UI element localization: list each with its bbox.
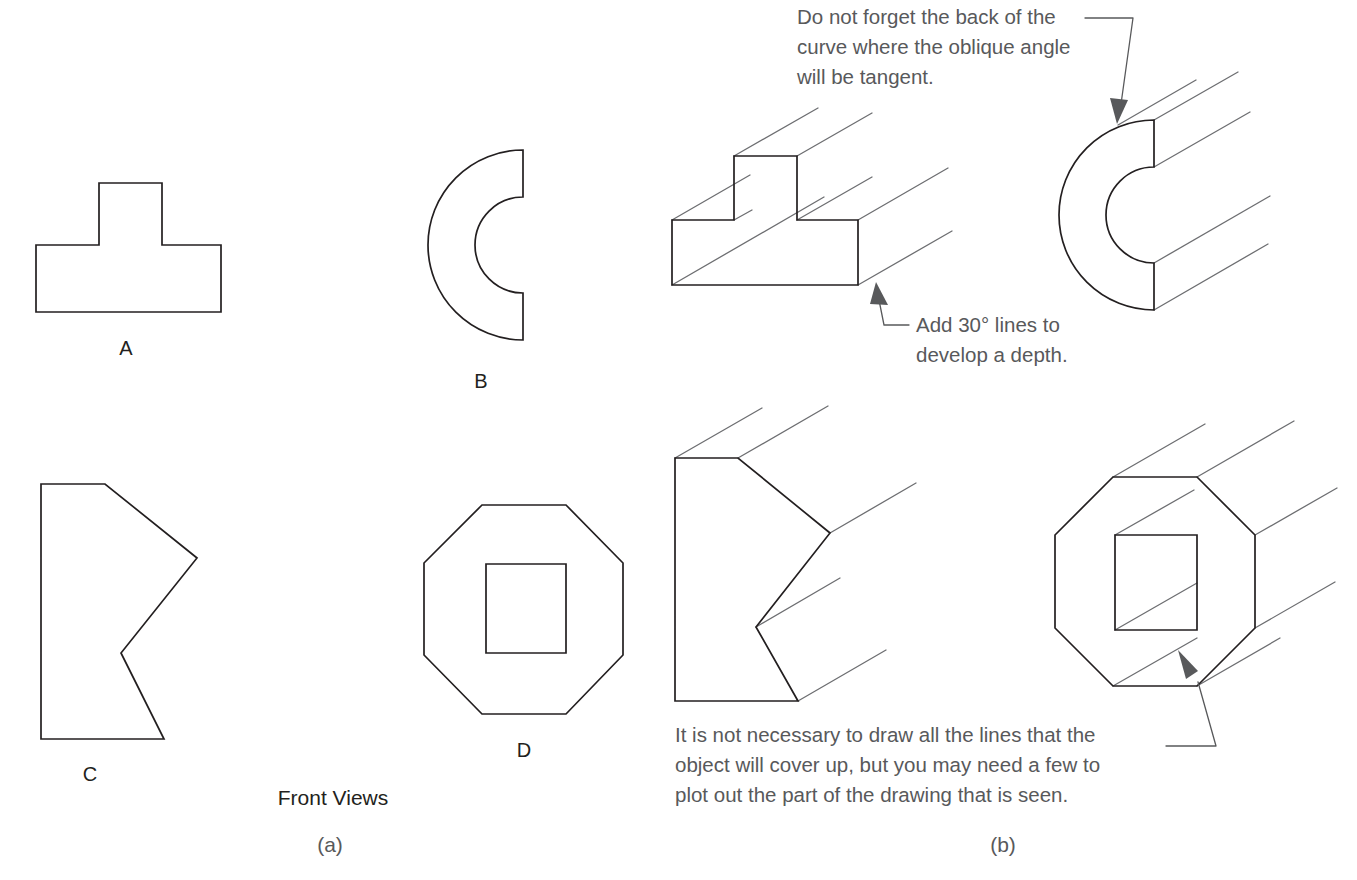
note-add-30-line-1: Add 30° lines to	[916, 313, 1060, 336]
front-view-label-b: B	[474, 370, 487, 392]
front-view-label-a: A	[119, 337, 133, 359]
front-views-title: Front Views	[278, 786, 389, 809]
note-hidden-lines-line-1: It is not necessary to draw all the line…	[675, 723, 1095, 746]
note-curve-back-line-1: Do not forget the back of the	[797, 5, 1056, 28]
note-hidden-lines-line-2: object will cover up, but you may need a…	[675, 753, 1100, 776]
panel-a-caption: (a)	[317, 833, 343, 856]
note-hidden-lines-line-3: plot out the part of the drawing that is…	[675, 783, 1068, 806]
front-view-label-d: D	[517, 739, 531, 761]
note-curve-back-line-3: will be tangent.	[796, 65, 934, 88]
note-curve-back-line-2: curve where the oblique angle	[797, 35, 1071, 58]
panel-b-caption: (b)	[990, 833, 1016, 856]
front-view-label-c: C	[83, 763, 97, 785]
oblique-drawing-figure: A B C D Front Views (a) Do not forget th…	[0, 0, 1357, 880]
note-add-30-line-2: develop a depth.	[916, 343, 1068, 366]
